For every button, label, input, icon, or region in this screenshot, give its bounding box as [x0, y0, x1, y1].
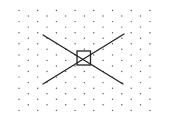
- grid-dot: [56, 10, 57, 11]
- grid-dot: [28, 82, 29, 83]
- grid-dot: [121, 71, 122, 72]
- grid-dot: [18, 65, 19, 66]
- grid-dot: [56, 110, 57, 111]
- grid-dot: [84, 15, 85, 16]
- grid-dot: [93, 21, 94, 22]
- grid-dot: [74, 32, 75, 33]
- grid-dot: [65, 93, 66, 94]
- grid-dot: [112, 21, 113, 22]
- grid-dot: [65, 38, 66, 39]
- grid-dot: [149, 32, 150, 33]
- grid-dot: [65, 26, 66, 27]
- grid-dot: [84, 38, 85, 39]
- grid-dot: [46, 71, 47, 72]
- grid-dot: [93, 76, 94, 77]
- grid-dot: [93, 88, 94, 89]
- grid-dot: [56, 54, 57, 55]
- grid-dot: [46, 60, 47, 61]
- grid-dot: [131, 65, 132, 66]
- grid-dot: [121, 15, 122, 16]
- grid-dot: [18, 76, 19, 77]
- grid-dot: [121, 60, 122, 61]
- grid-dot: [131, 32, 132, 33]
- grid-dot: [28, 93, 29, 94]
- grid-dot: [84, 82, 85, 83]
- grid-dot: [102, 38, 103, 39]
- grid-dot: [65, 60, 66, 61]
- grid-dot: [46, 26, 47, 27]
- grid-dot: [131, 43, 132, 44]
- grid-dot: [37, 21, 38, 22]
- grid-dot: [149, 65, 150, 66]
- grid-dot: [37, 76, 38, 77]
- grid-dot: [37, 43, 38, 44]
- grid-dot: [149, 54, 150, 55]
- grid-dot: [93, 110, 94, 111]
- grid-dot: [28, 71, 29, 72]
- grid-dot: [131, 54, 132, 55]
- grid-dot: [112, 99, 113, 100]
- grid-dot: [74, 65, 75, 66]
- grid-dot: [102, 93, 103, 94]
- grid-dot: [84, 71, 85, 72]
- grid-dot: [140, 49, 141, 50]
- grid-dot: [37, 99, 38, 100]
- grid-dot: [112, 110, 113, 111]
- grid-dot: [131, 88, 132, 89]
- grid-dot: [121, 104, 122, 105]
- grid-dot: [102, 15, 103, 16]
- grid-dot: [28, 60, 29, 61]
- grid-dot: [74, 76, 75, 77]
- grid-dot: [37, 88, 38, 89]
- grid-dot: [140, 71, 141, 72]
- grid-dot: [140, 15, 141, 16]
- grid-dot: [56, 88, 57, 89]
- grid-dot: [131, 10, 132, 11]
- grid-dot: [37, 110, 38, 111]
- grid-dot: [18, 21, 19, 22]
- grid-dot: [131, 76, 132, 77]
- grid-dot: [140, 82, 141, 83]
- grid-dot: [28, 26, 29, 27]
- grid-dot: [102, 26, 103, 27]
- grid-dot: [74, 110, 75, 111]
- dot-grid-diagram: [0, 0, 171, 118]
- grid-dot: [140, 104, 141, 105]
- grid-dot: [112, 10, 113, 11]
- grid-dot: [140, 93, 141, 94]
- grid-dot: [37, 65, 38, 66]
- grid-dot: [56, 65, 57, 66]
- grid-dot: [74, 10, 75, 11]
- grid-dot: [112, 88, 113, 89]
- grid-dot: [56, 32, 57, 33]
- grid-dot: [37, 32, 38, 33]
- diagram-background: [0, 0, 171, 118]
- grid-dot: [84, 104, 85, 105]
- grid-dot: [149, 21, 150, 22]
- grid-dot: [149, 10, 150, 11]
- grid-dot: [74, 88, 75, 89]
- grid-dot: [18, 110, 19, 111]
- grid-dot: [140, 26, 141, 27]
- grid-dot: [140, 38, 141, 39]
- grid-dot: [56, 99, 57, 100]
- grid-dot: [37, 10, 38, 11]
- grid-dot: [84, 26, 85, 27]
- grid-dot: [65, 104, 66, 105]
- grid-dot: [102, 82, 103, 83]
- grid-dot: [18, 10, 19, 11]
- grid-dot: [74, 99, 75, 100]
- grid-dot: [131, 110, 132, 111]
- grid-dot: [18, 99, 19, 100]
- grid-dot: [93, 43, 94, 44]
- grid-dot: [46, 15, 47, 16]
- grid-dot: [149, 88, 150, 89]
- grid-dot: [149, 43, 150, 44]
- grid-dot: [84, 93, 85, 94]
- grid-dot: [149, 99, 150, 100]
- grid-dot: [112, 32, 113, 33]
- grid-dot: [102, 49, 103, 50]
- grid-dot: [112, 65, 113, 66]
- grid-dot: [65, 82, 66, 83]
- grid-dot: [65, 15, 66, 16]
